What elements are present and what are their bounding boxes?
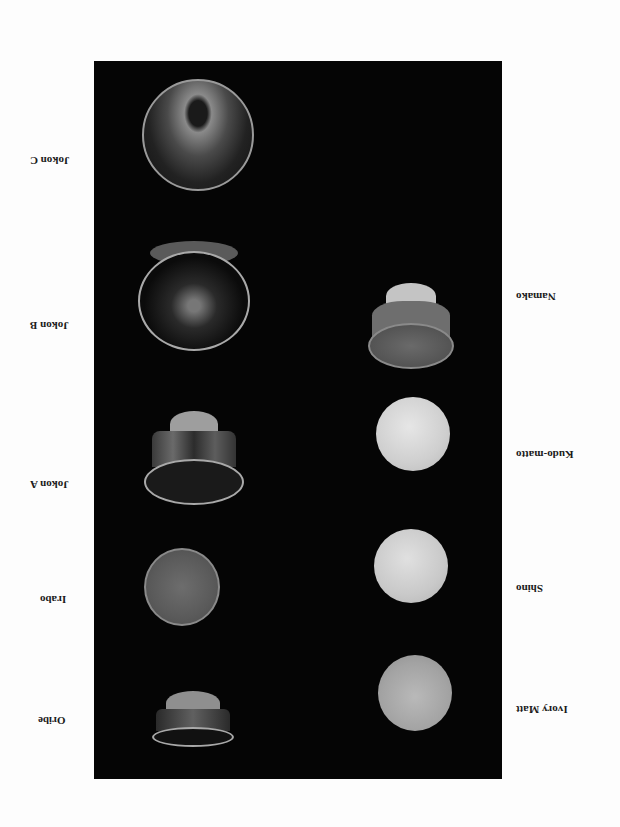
glaze-sample-jokon-a bbox=[144, 411, 244, 507]
label-jokon-c: Jokon C bbox=[30, 155, 69, 167]
glaze-sample-oribe bbox=[152, 691, 234, 747]
label-jokon-a: Jokon A bbox=[30, 479, 69, 491]
label-shino: Shino bbox=[516, 583, 543, 595]
glaze-sample-kudo-matto bbox=[376, 397, 450, 471]
glaze-sample-ivory-matt bbox=[378, 655, 452, 731]
glaze-sample-namako bbox=[368, 283, 454, 369]
scanned-page: Jokon C Jokon B Jokon A Irabo Oribe Nama… bbox=[0, 0, 620, 827]
photo-panel bbox=[94, 61, 502, 779]
glaze-sample-shino bbox=[374, 529, 448, 603]
label-ivory-matt: Ivory Matt bbox=[516, 704, 568, 716]
label-namako: Namako bbox=[516, 291, 556, 303]
label-kudo-matto: Kudo-matto bbox=[516, 449, 573, 461]
label-jokon-b: Jokon B bbox=[30, 320, 69, 332]
glaze-sample-jokon-b bbox=[138, 241, 250, 351]
glaze-sample-jokon-c bbox=[142, 79, 254, 191]
label-irabo: Irabo bbox=[40, 594, 66, 606]
label-oribe: Oribe bbox=[38, 715, 66, 727]
glaze-sample-irabo bbox=[144, 548, 220, 626]
